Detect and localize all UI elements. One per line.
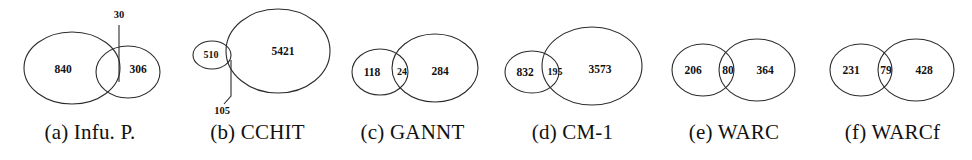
venn-mid-count-c: 24 — [397, 66, 407, 77]
venn-svg-e: 206 80 364 — [655, 0, 813, 118]
venn-graphic-a: 840 30 306 — [0, 0, 180, 118]
venn-panel-c: 118 24 284 (c) GANNT — [335, 0, 490, 160]
venn-left-count-a: 840 — [54, 63, 72, 75]
venn-right-count-e: 364 — [756, 64, 774, 76]
venn-panel-f: 231 79 428 (f) WARCf — [813, 0, 972, 160]
venn-left-count-b: 510 — [204, 49, 219, 60]
venn-right-count-f: 428 — [915, 64, 933, 76]
venn-caption-f: (f) WARCf — [813, 120, 972, 145]
venn-panel-e: 206 80 364 (e) WARC — [655, 0, 813, 160]
venn-panel-a: 840 30 306 (a) Infu. P. — [0, 0, 180, 160]
venn-caption-e: (e) WARC — [655, 120, 813, 145]
venn-svg-d: 832 195 3573 — [490, 0, 655, 118]
venn-mid-count-a: 30 — [114, 9, 125, 20]
venn-caption-a: (a) Infu. P. — [0, 120, 180, 145]
venn-graphic-c: 118 24 284 — [335, 0, 490, 118]
venn-right-ellipse-a — [96, 46, 160, 98]
venn-left-count-d: 832 — [516, 66, 534, 78]
venn-graphic-d: 832 195 3573 — [490, 0, 655, 118]
venn-caption-d: (d) CM-1 — [490, 120, 655, 145]
venn-mid-count-b: 105 — [214, 105, 230, 116]
venn-left-ellipse-a — [24, 32, 120, 104]
venn-figure: 840 30 306 (a) Infu. P. 510 105 5421 (b)… — [0, 0, 972, 160]
venn-graphic-f: 231 79 428 — [813, 0, 972, 118]
venn-right-count-d: 3573 — [589, 63, 612, 75]
venn-right-count-a: 306 — [129, 63, 147, 75]
venn-right-count-c: 284 — [431, 65, 449, 77]
venn-mid-count-d: 195 — [548, 66, 563, 77]
venn-caption-c: (c) GANNT — [335, 120, 490, 145]
venn-left-count-e: 206 — [684, 64, 702, 76]
venn-svg-c: 118 24 284 — [335, 0, 490, 118]
venn-graphic-b: 510 105 5421 — [180, 0, 335, 118]
venn-mid-count-e: 80 — [722, 64, 734, 76]
venn-right-count-b: 5421 — [272, 45, 295, 57]
venn-caption-b: (b) CCHIT — [180, 120, 335, 145]
venn-svg-f: 231 79 428 — [813, 0, 972, 118]
venn-left-count-f: 231 — [842, 64, 860, 76]
venn-svg-b: 510 105 5421 — [180, 0, 335, 118]
venn-graphic-e: 206 80 364 — [655, 0, 813, 118]
venn-panel-b: 510 105 5421 (b) CCHIT — [180, 0, 335, 160]
venn-panel-d: 832 195 3573 (d) CM-1 — [490, 0, 655, 160]
venn-left-count-c: 118 — [364, 66, 381, 78]
venn-mid-count-f: 79 — [880, 64, 892, 76]
venn-svg-a: 840 30 306 — [0, 0, 180, 118]
